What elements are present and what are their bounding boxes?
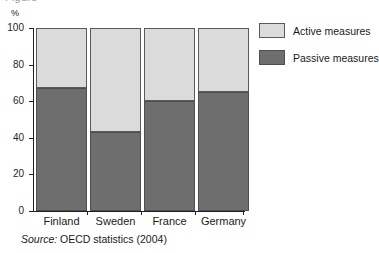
legend-swatch-passive-icon [259,50,285,65]
bar-segment-passive[interactable] [144,101,195,211]
x-tick-mark [141,211,142,215]
y-tick-label: 0 [0,206,24,216]
bar-segment-passive[interactable] [198,92,249,211]
y-tick-mark [29,138,33,139]
legend-label-active: Active measures [293,25,371,37]
bar-group[interactable] [36,28,87,211]
bar-group[interactable] [144,28,195,211]
bar-segment-active[interactable] [36,28,87,88]
y-tick-mark [29,65,33,66]
legend-item-active[interactable]: Active measures [259,23,359,38]
y-tick-mark [29,101,33,102]
x-tick-mark [195,211,196,215]
source-note: Source: OECD statistics (2004) [21,233,167,245]
legend-swatch-active-icon [259,23,285,38]
x-tick-mark-end [243,211,244,215]
bar-segment-active[interactable] [144,28,195,101]
source-prefix: Source: [21,233,57,245]
y-axis-line [33,28,34,212]
bar-segment-passive[interactable] [90,132,141,211]
bar-segment-passive[interactable] [36,88,87,211]
y-tick-label: 20 [0,169,24,179]
y-tick-label: 40 [0,133,24,143]
x-axis-line [33,211,245,212]
x-category-label: Germany [190,215,257,227]
bar-segment-active[interactable] [90,28,141,132]
bar-group[interactable] [90,28,141,211]
bar-group[interactable] [198,28,249,211]
chart-legend: Active measures Passive measures [259,23,359,77]
legend-item-passive[interactable]: Passive measures [259,50,359,65]
source-text: OECD statistics (2004) [60,233,167,245]
y-tick-label: 60 [0,96,24,106]
legend-label-passive: Passive measures [293,52,379,64]
bar-segment-active[interactable] [198,28,249,92]
y-tick-label: 100 [0,23,24,33]
y-tick-mark [29,28,33,29]
y-tick-mark [29,174,33,175]
x-tick-mark [87,211,88,215]
y-tick-label: 80 [0,60,24,70]
y-tick-mark [29,211,33,212]
